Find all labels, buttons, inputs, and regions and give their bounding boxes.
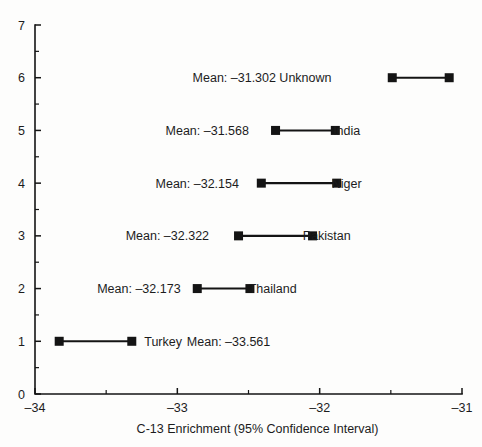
ci-lower-marker <box>193 284 202 293</box>
y-tick-label: 5 <box>18 124 25 138</box>
ci-lower-marker <box>257 179 266 188</box>
x-tick-label: –31 <box>452 401 473 415</box>
mean-label-turkey: Mean: –33.561 <box>187 335 270 349</box>
annotations-layer: Mean: –31.302UnknownMean: –31.568IndiaMe… <box>97 71 361 349</box>
confidence-interval-series-layer <box>55 73 454 346</box>
mean-label-pakistan: Mean: –32.322 <box>126 229 209 243</box>
axis-title-layer: C-13 Enrichment (95% Confidence Interval… <box>137 422 379 436</box>
ci-row-thailand <box>193 284 255 293</box>
group-label-thailand: Thailand <box>249 282 297 296</box>
c13-enrichment-chart: 01234567–34–33–32–31 Mean: –31.302Unknow… <box>0 0 482 447</box>
mean-label-thailand: Mean: –32.173 <box>97 282 180 296</box>
ci-lower-marker <box>234 231 243 240</box>
mean-label-india: Mean: –31.568 <box>166 124 249 138</box>
y-tick-label: 3 <box>18 229 25 243</box>
ci-row-india <box>271 126 340 135</box>
x-tick-label: –32 <box>309 401 330 415</box>
group-label-india: India <box>333 124 360 138</box>
x-axis-title: C-13 Enrichment (95% Confidence Interval… <box>137 422 379 436</box>
group-label-turkey: Turkey <box>144 335 182 349</box>
ci-row-unknown <box>388 73 454 82</box>
ci-lower-marker <box>271 126 280 135</box>
group-label-niger: Niger <box>332 177 362 191</box>
ci-lower-marker <box>388 73 397 82</box>
y-tick-label: 6 <box>18 71 25 85</box>
ci-lower-marker <box>55 337 64 346</box>
y-tick-label: 1 <box>18 335 25 349</box>
group-label-pakistan: Pakistan <box>303 229 351 243</box>
ci-row-turkey <box>55 337 137 346</box>
ci-upper-marker <box>127 337 136 346</box>
group-label-unknown: Unknown <box>279 71 331 85</box>
x-tick-label: –33 <box>167 401 188 415</box>
x-tick-label: –34 <box>25 401 46 415</box>
y-tick-label: 0 <box>18 388 25 402</box>
y-tick-label: 2 <box>18 282 25 296</box>
plot-canvas: 01234567–34–33–32–31 Mean: –31.302Unknow… <box>0 0 482 447</box>
mean-label-unknown: Mean: –31.302 <box>193 71 276 85</box>
ci-upper-marker <box>445 73 454 82</box>
y-tick-label: 4 <box>18 177 25 191</box>
ci-row-niger <box>257 179 341 188</box>
y-tick-label: 7 <box>18 19 25 33</box>
mean-label-niger: Mean: –32.154 <box>156 177 239 191</box>
